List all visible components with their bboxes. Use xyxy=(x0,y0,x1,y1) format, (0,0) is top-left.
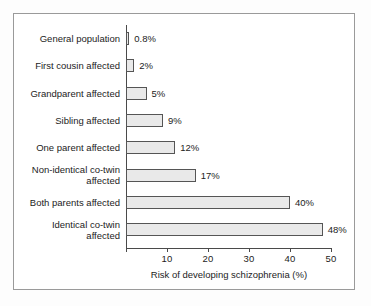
category-label: General population xyxy=(0,33,120,44)
bar xyxy=(126,32,129,45)
axis-tick-20 xyxy=(208,248,209,252)
bar xyxy=(126,223,323,236)
category-label-line: Sibling affected xyxy=(55,115,120,126)
axis-tick-50 xyxy=(331,248,332,252)
category-label: Sibling affected xyxy=(0,115,120,126)
category-label-line: One parent affected xyxy=(36,142,120,153)
bar xyxy=(126,59,134,72)
category-axis-line xyxy=(126,25,127,248)
bar-value-label: 2% xyxy=(139,60,153,71)
category-label-line: affected xyxy=(86,175,120,186)
bar-value-label: 17% xyxy=(201,170,220,181)
category-label: Grandparent affected xyxy=(0,88,120,99)
value-axis-line xyxy=(126,248,332,249)
category-label: One parent affected xyxy=(0,142,120,153)
axis-tick-0 xyxy=(126,248,127,252)
chart-figure: General population0.8%First cousin affec… xyxy=(0,0,371,306)
bar-value-label: 12% xyxy=(180,142,199,153)
x-axis-title: Risk of developing schizophrenia (%) xyxy=(126,269,332,280)
axis-tick-label-20: 20 xyxy=(193,253,223,264)
bar-value-label: 5% xyxy=(152,88,166,99)
axis-tick-label-50: 50 xyxy=(316,253,346,264)
axis-tick-label-30: 30 xyxy=(234,253,264,264)
axis-tick-label-40: 40 xyxy=(275,253,305,264)
bar xyxy=(126,87,147,100)
bar-value-label: 0.8% xyxy=(134,33,156,44)
bar xyxy=(126,114,163,127)
bar-value-label: 40% xyxy=(295,197,314,208)
category-label-line: Both parents affected xyxy=(30,197,120,208)
bar-value-label: 9% xyxy=(168,115,182,126)
category-label-line: Non-identical co-twin xyxy=(32,164,120,175)
category-label: Both parents affected xyxy=(0,197,120,208)
axis-tick-40 xyxy=(290,248,291,252)
category-label: First cousin affected xyxy=(0,60,120,71)
category-label-line: Grandparent affected xyxy=(30,88,120,99)
category-label: Identical co-twinaffected xyxy=(0,219,120,241)
bar xyxy=(126,169,196,182)
category-label: Non-identical co-twinaffected xyxy=(0,164,120,186)
category-label-line: General population xyxy=(40,33,120,44)
axis-tick-10 xyxy=(167,248,168,252)
bar xyxy=(126,141,175,154)
category-label-line: affected xyxy=(86,230,120,241)
bar xyxy=(126,196,290,209)
category-label-line: Identical co-twin xyxy=(52,219,120,230)
axis-tick-30 xyxy=(249,248,250,252)
category-label-line: First cousin affected xyxy=(35,60,120,71)
bar-value-label: 48% xyxy=(328,224,347,235)
axis-tick-label-10: 10 xyxy=(152,253,182,264)
